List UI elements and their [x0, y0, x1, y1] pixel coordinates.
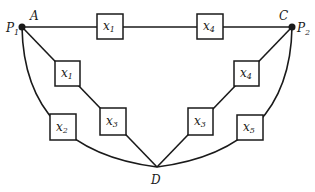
node-a-dot: [19, 24, 26, 31]
node-d-label: D: [150, 173, 161, 187]
node-p2-label: P2: [296, 21, 310, 37]
component-right-inner-x4: x4: [234, 61, 259, 86]
node-a-label: A: [29, 9, 39, 23]
edge-c-d-inner: [157, 27, 292, 167]
network-diagram: A P1 C P2 D x1 x4 x1 x3 x2 x4 x3 x5: [0, 0, 315, 192]
component-left-inner-x1: x1: [55, 61, 80, 86]
edge-a-d-inner: [22, 27, 157, 167]
node-c-label: C: [279, 9, 288, 23]
component-right-outer-x5: x5: [237, 115, 263, 140]
component-left-outer-x2: x2: [50, 114, 76, 140]
node-p1-label: P1: [5, 21, 19, 37]
node-c-dot: [289, 24, 296, 31]
component-top-x4: x4: [197, 14, 223, 39]
component-right-inner-x3: x3: [188, 108, 213, 135]
component-left-inner-x3: x3: [100, 108, 126, 135]
component-top-x1: x1: [97, 14, 123, 39]
